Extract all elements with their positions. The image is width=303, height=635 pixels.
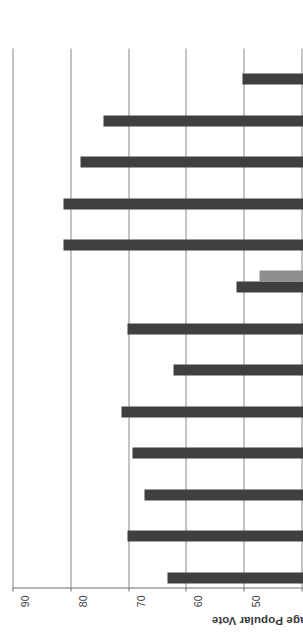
y-tick-label: 70 [134,595,146,607]
bar-democratic[interactable] [103,115,303,126]
rotated-chart-stage: Percentage Popular Vote 0102030405060708… [0,0,303,635]
y-tick-label: 80 [76,595,88,607]
bar-group [173,338,303,380]
bar-democratic[interactable] [167,572,303,583]
y-tick-label: 50 [249,595,261,607]
chart-screenshot: Percentage Popular Vote 0102030405060708… [0,0,303,635]
bar-democratic[interactable] [63,198,303,209]
bar-group [63,172,303,214]
bar-group [127,504,303,546]
y-tick-mark [70,587,71,591]
y-tick-mark [12,587,13,591]
y-tick-label: 60 [191,595,203,607]
bar-group [242,47,303,89]
bar-group [236,255,303,297]
y-axis-title-text: Percentage Popular Vote [211,614,303,626]
bar-group [132,421,303,463]
bar-group [167,545,303,587]
bar-group [63,213,303,255]
bar-democratic[interactable] [127,323,303,334]
bar-group [80,130,303,172]
plot-area [12,48,303,588]
bar-democratic[interactable] [144,489,303,500]
bar-democratic[interactable] [63,239,303,250]
bar-democratic[interactable] [121,406,303,417]
y-tick-mark [128,587,129,591]
bar-democratic[interactable] [80,156,303,167]
bar-group [121,379,303,421]
bar-group [144,462,303,504]
bar-democratic[interactable] [242,73,303,84]
bar-democratic[interactable] [132,447,303,458]
gridline [70,48,71,587]
y-tick-mark [301,587,302,591]
bar-democratic[interactable] [236,281,303,292]
bar-republican[interactable] [259,270,303,281]
bar-chart: Percentage Popular Vote 0102030405060708… [0,0,303,635]
gridline [12,48,13,587]
y-tick-mark [243,587,244,591]
bar-group [103,89,303,131]
y-axis-title: Percentage Popular Vote [0,611,303,629]
y-tick-label: 90 [18,595,30,607]
y-tick-mark [185,587,186,591]
bar-democratic[interactable] [173,364,303,375]
y-axis-tick-labels: 0102030405060708090 [12,591,303,613]
bar-group [127,296,303,338]
bar-democratic[interactable] [127,530,303,541]
